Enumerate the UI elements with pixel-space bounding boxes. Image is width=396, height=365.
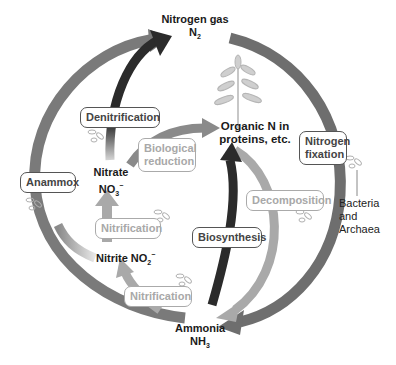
organic-n-line2: proteins, etc. xyxy=(215,133,295,146)
bacteria-icon-denitrification xyxy=(88,130,104,142)
nitrogen-gas-name: Nitrogen gas xyxy=(150,13,240,26)
node-nitrite: Nitrite NO2− xyxy=(96,248,176,269)
decomposition-arrowhead xyxy=(216,302,240,322)
node-organic-n: Organic N in proteins, etc. xyxy=(215,120,295,146)
process-denitrification: Denitrification xyxy=(80,107,160,128)
bacteria-icon-fixation xyxy=(346,156,362,168)
process-nitrification-lower: Nitrification xyxy=(124,286,192,307)
process-biological-reduction: Biological reduction xyxy=(138,138,196,172)
bacteria-icon-nitrification-lower xyxy=(176,274,192,286)
plant-icon xyxy=(214,55,263,128)
nitrate-formula: NO3− xyxy=(86,179,136,200)
annotation-bacteria-archaea: Bacteria and Archaea xyxy=(339,197,380,236)
organic-n-line1: Organic N in xyxy=(215,120,295,133)
process-nitrogen-fixation: Nitrogen fixation xyxy=(299,131,347,165)
ammonia-name: Ammonia xyxy=(170,322,230,335)
node-nitrate: Nitrate NO3− xyxy=(86,166,136,200)
process-decomposition: Decomposition xyxy=(246,190,324,211)
process-anammox: Anammox xyxy=(20,172,76,193)
process-nitrification-upper: Nitrification xyxy=(95,218,161,239)
node-ammonia: Ammonia NH3 xyxy=(170,322,230,352)
process-biosynthesis: Biosynthesis xyxy=(192,227,262,248)
ammonia-formula: NH3 xyxy=(170,335,230,352)
node-nitrogen-gas: Nitrogen gas N2 xyxy=(150,13,240,43)
bacteria-icon-decomposition xyxy=(296,210,312,222)
nitrate-name: Nitrate xyxy=(86,166,136,179)
nitrogen-gas-formula: N2 xyxy=(150,26,240,43)
